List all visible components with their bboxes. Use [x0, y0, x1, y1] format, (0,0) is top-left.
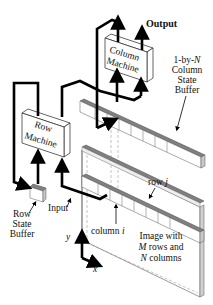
image-label-3: N columns — [140, 253, 182, 263]
row-state-buffer-cube — [30, 184, 46, 202]
input-label: Input — [48, 203, 68, 213]
output-label: Output — [146, 18, 178, 29]
column-state-buffer-label-3: State — [178, 75, 197, 85]
column-buffer-pointer — [177, 96, 186, 129]
column-to-buffer-wire — [62, 81, 141, 104]
diagram-canvas: Column Machine Row Machine — [0, 0, 213, 305]
x-axis-label: x — [92, 264, 98, 274]
y-axis-label: y — [65, 232, 71, 242]
row-state-buffer-label-3: Buffer — [10, 229, 35, 239]
image-label-2: M rows and — [138, 242, 184, 252]
column-i-label: column i — [91, 226, 125, 236]
row-state-buffer-label-2: State — [13, 219, 32, 229]
column-state-buffer-label-2: Column — [172, 65, 203, 75]
row-j-label: row j — [148, 177, 168, 187]
column-state-buffer-label-1: 1-by-N — [174, 55, 202, 65]
image-label-1: Image with — [139, 231, 182, 241]
column-state-buffer-label-4: Buffer — [175, 85, 200, 95]
column-machine: Column Machine — [105, 34, 153, 82]
row-state-buffer-label-1: Row — [13, 209, 31, 219]
